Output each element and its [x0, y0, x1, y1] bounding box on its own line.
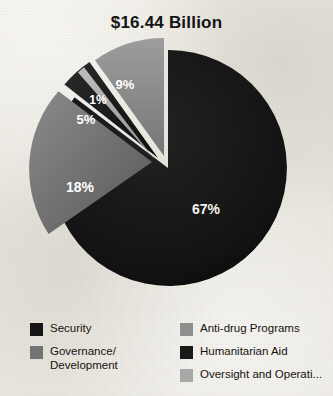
legend-swatch-anti-drug-programs — [180, 323, 193, 336]
slice-value-anti-drug-programs: 9% — [116, 77, 135, 92]
legend-column-right: Anti-drug Programs Humanitarian Aid Over… — [180, 322, 330, 391]
legend-label-humanitarian-aid: Humanitarian Aid — [200, 345, 288, 359]
legend-item-humanitarian-aid: Humanitarian Aid — [180, 345, 330, 359]
legend-swatch-governance-development — [30, 346, 43, 359]
legend-label-governance-development: Governance/ Development — [50, 345, 118, 372]
legend-column-left: Security Governance/ Development — [30, 322, 180, 391]
legend-item-oversight-and-operations: Oversight and Operati... — [180, 368, 330, 382]
legend-swatch-security — [30, 323, 43, 336]
legend-label-oversight-and-operations: Oversight and Operati... — [200, 368, 322, 382]
legend: Security Governance/ Development Anti-dr… — [30, 322, 330, 391]
legend-item-security: Security — [30, 322, 180, 336]
pie-chart: 67% 18% 9% 5% 1% — [18, 36, 298, 308]
slice-value-governance-development: 18% — [66, 179, 95, 195]
slice-value-security: 67% — [192, 201, 221, 217]
legend-label-anti-drug-programs: Anti-drug Programs — [200, 322, 300, 336]
pie-chart-svg: 67% 18% 9% 5% 1% — [18, 36, 298, 308]
legend-item-governance-development: Governance/ Development — [30, 345, 180, 372]
legend-swatch-humanitarian-aid — [180, 346, 193, 359]
slice-value-humanitarian-aid: 5% — [77, 112, 96, 127]
legend-label-security: Security — [50, 322, 92, 336]
legend-item-anti-drug-programs: Anti-drug Programs — [180, 322, 330, 336]
legend-swatch-oversight-and-operations — [180, 369, 193, 382]
slice-value-oversight-and-operations: 1% — [89, 93, 107, 107]
page-title: $16.44 Billion — [0, 13, 333, 33]
